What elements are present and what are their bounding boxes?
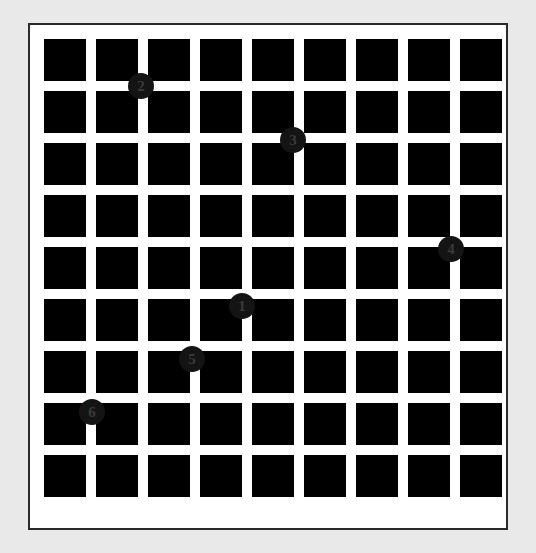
grid-square <box>200 195 242 237</box>
grid-square <box>356 195 398 237</box>
grid-square <box>408 403 450 445</box>
grid-square <box>148 143 190 185</box>
grid-square <box>252 455 294 497</box>
grid-square <box>408 195 450 237</box>
grid-marker-1[interactable]: 1 <box>229 293 255 319</box>
screenshot-canvas: 123456 <box>0 0 536 553</box>
grid-square <box>304 455 346 497</box>
grid-square <box>200 143 242 185</box>
grid-square <box>460 455 502 497</box>
grid-square <box>252 351 294 393</box>
grid-square <box>44 91 86 133</box>
grid-square <box>96 39 138 81</box>
grid-square <box>252 299 294 341</box>
grid-square <box>356 247 398 289</box>
grid-square <box>200 455 242 497</box>
grid-square <box>148 403 190 445</box>
grid-square <box>356 91 398 133</box>
grid-square <box>200 403 242 445</box>
grid-square <box>304 91 346 133</box>
grid-square <box>252 403 294 445</box>
grid-square <box>252 91 294 133</box>
grid-square <box>44 247 86 289</box>
grid-square <box>460 143 502 185</box>
grid-square <box>148 91 190 133</box>
grid-square <box>252 195 294 237</box>
grid-marker-label: 2 <box>137 79 145 94</box>
grid-square <box>304 39 346 81</box>
grid-square <box>460 195 502 237</box>
grid-square <box>96 143 138 185</box>
grid-square <box>200 39 242 81</box>
grid-square <box>96 195 138 237</box>
grid-square <box>304 299 346 341</box>
grid-square <box>460 351 502 393</box>
hermann-grid-panel: 123456 <box>28 23 508 530</box>
grid-square <box>460 299 502 341</box>
grid-square <box>200 91 242 133</box>
grid-square <box>96 351 138 393</box>
grid-square <box>356 403 398 445</box>
grid-square <box>304 403 346 445</box>
grid-square <box>96 299 138 341</box>
grid-square <box>44 299 86 341</box>
grid-square <box>44 39 86 81</box>
grid-square <box>408 455 450 497</box>
grid-square <box>44 143 86 185</box>
grid-square <box>252 39 294 81</box>
grid-square <box>304 247 346 289</box>
grid-square <box>44 351 86 393</box>
grid-square <box>96 247 138 289</box>
grid-square <box>44 195 86 237</box>
grid-square <box>304 195 346 237</box>
grid-square <box>304 143 346 185</box>
grid-square <box>408 351 450 393</box>
grid-square <box>460 403 502 445</box>
grid-square <box>356 299 398 341</box>
grid-square <box>304 351 346 393</box>
grid-marker-5[interactable]: 5 <box>179 346 205 372</box>
grid-square <box>148 39 190 81</box>
grid-square <box>460 247 502 289</box>
grid-marker-3[interactable]: 3 <box>280 127 306 153</box>
grid-square <box>96 455 138 497</box>
grid-square <box>148 455 190 497</box>
grid-square <box>148 299 190 341</box>
grid-square <box>148 247 190 289</box>
grid-square <box>460 91 502 133</box>
grid-squares-layer <box>30 25 506 528</box>
grid-marker-label: 3 <box>289 133 297 148</box>
grid-marker-6[interactable]: 6 <box>79 399 105 425</box>
grid-square <box>356 351 398 393</box>
grid-square <box>356 455 398 497</box>
grid-marker-label: 6 <box>88 405 96 420</box>
grid-marker-2[interactable]: 2 <box>128 73 154 99</box>
grid-square <box>408 299 450 341</box>
grid-square <box>408 91 450 133</box>
grid-square <box>96 91 138 133</box>
grid-square <box>408 143 450 185</box>
grid-square <box>200 351 242 393</box>
grid-marker-label: 1 <box>238 299 246 314</box>
grid-square <box>408 39 450 81</box>
grid-marker-4[interactable]: 4 <box>438 236 464 262</box>
grid-square <box>460 39 502 81</box>
grid-square <box>200 247 242 289</box>
grid-square <box>148 195 190 237</box>
grid-marker-label: 5 <box>188 352 196 367</box>
grid-square <box>356 39 398 81</box>
grid-square <box>44 455 86 497</box>
grid-square <box>252 247 294 289</box>
grid-square <box>356 143 398 185</box>
grid-marker-label: 4 <box>447 242 455 257</box>
